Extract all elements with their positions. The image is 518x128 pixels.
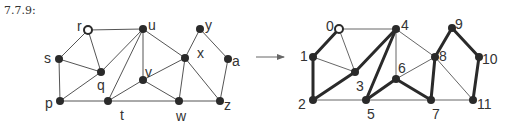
left-node-label-u: u — [148, 17, 156, 33]
left-edge-x-w — [179, 58, 185, 101]
right-node-11 — [469, 96, 477, 104]
right-node-4 — [392, 25, 400, 33]
right-node-1 — [309, 53, 317, 61]
left-node-label-s: s — [44, 50, 51, 66]
right-node-label-6: 6 — [398, 60, 406, 76]
left-edge-p-q — [60, 72, 101, 101]
exercise-number: 7.7.9: — [4, 4, 36, 17]
right-node-label-4: 4 — [401, 17, 409, 33]
left-edge-u-x — [143, 29, 185, 58]
right-edge-2-3-highlighted — [313, 72, 355, 100]
right-node-label-10: 10 — [482, 51, 498, 67]
left-edge-r-q — [88, 30, 101, 72]
left-edge-s-q — [59, 59, 101, 72]
left-edge-x-z — [185, 58, 220, 101]
right-node-label-0: 0 — [326, 18, 334, 34]
left-edge-y-a — [200, 29, 228, 59]
left-node-label-y: y — [205, 17, 212, 33]
left-node-r-root — [84, 26, 92, 34]
left-node-label-v: v — [145, 64, 152, 80]
right-node-3 — [351, 68, 359, 76]
left-node-q — [97, 68, 105, 76]
right-node-label-11: 11 — [477, 96, 492, 112]
right-node-label-1: 1 — [300, 48, 308, 64]
left-edge-v-w — [143, 80, 179, 101]
right-node-6 — [392, 75, 400, 83]
right-node-label-9: 9 — [455, 16, 463, 32]
left-node-z — [216, 97, 224, 105]
right-edge-10-11-highlighted — [473, 57, 479, 100]
left-node-x — [181, 54, 189, 62]
right-node-8 — [431, 53, 439, 61]
left-node-label-w: w — [175, 108, 187, 124]
right-edge-0-3 — [339, 29, 355, 72]
right-node-label-2: 2 — [298, 96, 306, 112]
left-node-a — [224, 55, 232, 63]
left-node-u — [139, 25, 147, 33]
left-node-label-p: p — [45, 95, 53, 111]
right-node-5 — [362, 96, 370, 104]
right-edge-6-7-highlighted — [396, 79, 431, 100]
left-edge-a-z — [220, 59, 228, 101]
right-node-7 — [427, 96, 435, 104]
left-node-label-t: t — [120, 107, 124, 123]
left-edge-s-p — [59, 59, 60, 101]
right-node-label-8: 8 — [439, 48, 447, 64]
left-node-label-a: a — [232, 53, 240, 69]
left-node-label-q: q — [97, 77, 105, 93]
numbered-graph: 04918103625711 — [298, 16, 498, 122]
left-node-label-z: z — [224, 97, 231, 113]
left-node-t — [104, 97, 112, 105]
right-edge-1-3 — [313, 57, 355, 72]
right-node-label-3: 3 — [356, 78, 364, 94]
left-node-label-r: r — [77, 18, 82, 34]
left-node-label-x: x — [197, 45, 204, 61]
right-edge-9-10-highlighted — [452, 28, 479, 57]
left-edge-r-u — [88, 29, 143, 30]
right-node-2 — [309, 96, 317, 104]
left-node-y — [196, 25, 204, 33]
right-node-label-5: 5 — [367, 106, 375, 122]
right-edge-3-4-highlighted — [355, 29, 396, 72]
left-node-w — [175, 97, 183, 105]
right-edge-7-8-highlighted — [431, 57, 435, 100]
right-node-label-7: 7 — [432, 106, 440, 122]
original-graph: ruysxaqvptwz — [44, 17, 240, 124]
left-edge-r-s — [59, 30, 88, 59]
left-node-s — [55, 55, 63, 63]
graph-figure: 7.7.9: ruysxaqvptwz 04918103625711 — [0, 0, 518, 128]
left-edge-q-u — [101, 29, 143, 72]
right-edge-4-8 — [396, 29, 435, 57]
right-node-0-root — [335, 25, 343, 33]
left-node-p — [56, 97, 64, 105]
